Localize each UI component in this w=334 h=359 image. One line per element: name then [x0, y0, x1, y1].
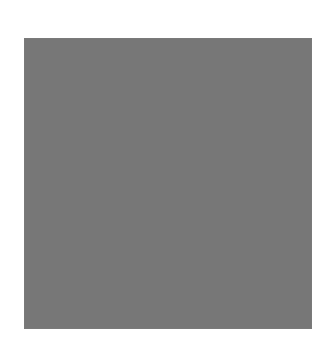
puzzle-grid: [24, 38, 312, 329]
